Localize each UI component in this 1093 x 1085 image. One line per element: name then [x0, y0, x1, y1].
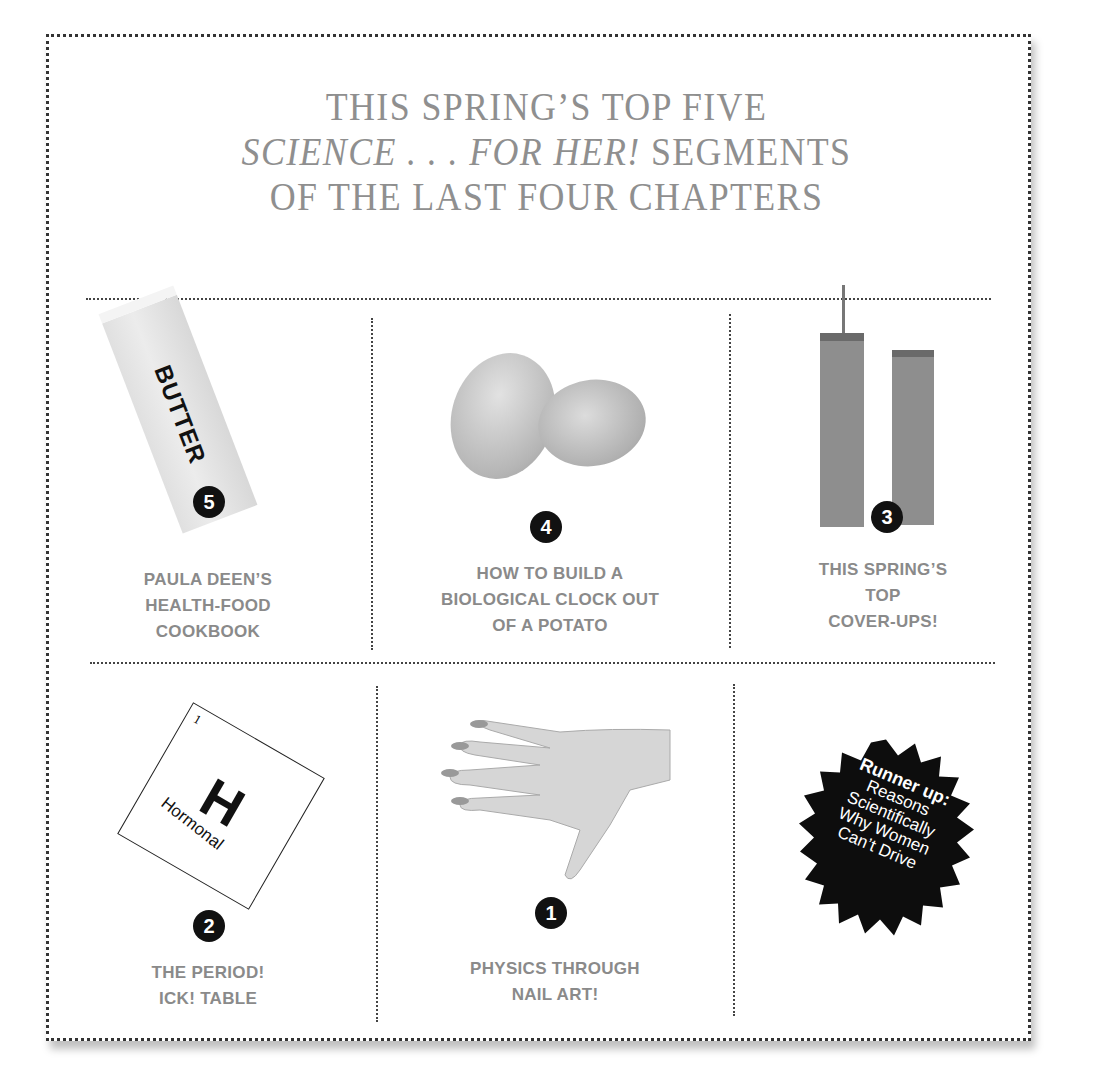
- rank-badge-1: 1: [535, 897, 567, 929]
- title-line-1: THIS SPRING’S TOP FIVE: [44, 84, 1050, 129]
- item-label-3: THIS SPRING’S TOP COVER-UPS!: [733, 557, 1033, 635]
- rank-badge-3: 3: [871, 501, 903, 533]
- butter-text: BUTTER: [148, 361, 211, 467]
- item-label-2: THE PERIOD! ICK! TABLE: [58, 960, 358, 1012]
- page-title: THIS SPRING’S TOP FIVE SCIENCE . . . FOR…: [44, 84, 1050, 219]
- title-italic: SCIENCE . . . FOR HER!: [242, 130, 641, 173]
- divider-col-2-row-2: [733, 684, 735, 1016]
- label-line: HOW TO BUILD A: [400, 561, 700, 587]
- label-line: OF A POTATO: [400, 613, 700, 639]
- item-label-1: PHYSICS THROUGH NAIL ART!: [405, 956, 705, 1008]
- hand-image: [430, 720, 680, 890]
- divider-col-2-row-1: [729, 314, 731, 648]
- rank-badge-2: 2: [193, 910, 225, 942]
- title-line-2-rest: SEGMENTS: [641, 130, 852, 173]
- title-line-2: SCIENCE . . . FOR HER! SEGMENTS: [44, 129, 1050, 174]
- label-line: HEALTH-FOOD: [58, 593, 358, 619]
- rank-badge-5: 5: [193, 486, 225, 518]
- tower-right: [892, 350, 934, 525]
- rank-badge-4: 4: [530, 511, 562, 543]
- tower-left: [820, 333, 864, 527]
- divider-col-1-row-2: [376, 686, 378, 1022]
- label-line: NAIL ART!: [405, 982, 705, 1008]
- label-line: COOKBOOK: [58, 619, 358, 645]
- label-line: THE PERIOD!: [58, 960, 358, 986]
- divider-middle: [90, 662, 995, 664]
- label-line: COVER-UPS!: [733, 609, 1033, 635]
- element-number: 1: [190, 711, 204, 728]
- antenna: [842, 285, 845, 333]
- item-label-4: HOW TO BUILD A BIOLOGICAL CLOCK OUT OF A…: [400, 561, 700, 639]
- label-line: ICK! TABLE: [58, 986, 358, 1012]
- label-line: BIOLOGICAL CLOCK OUT: [400, 587, 700, 613]
- label-line: THIS SPRING’S: [733, 557, 1033, 583]
- divider-top: [86, 298, 991, 300]
- label-line: PHYSICS THROUGH: [405, 956, 705, 982]
- divider-col-1-row-1: [371, 318, 373, 650]
- item-label-5: PAULA DEEN’S HEALTH-FOOD COOKBOOK: [58, 567, 358, 645]
- label-line: TOP: [733, 583, 1033, 609]
- label-line: PAULA DEEN’S: [58, 567, 358, 593]
- title-line-3: OF THE LAST FOUR CHAPTERS: [44, 174, 1050, 219]
